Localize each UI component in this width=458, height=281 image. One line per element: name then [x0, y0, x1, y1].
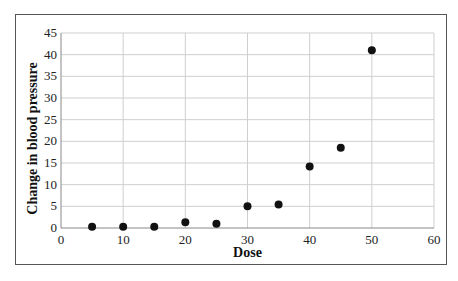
- y-tick-labels: 051015202530354045: [44, 25, 57, 235]
- y-tick-label: 25: [44, 112, 57, 127]
- data-point: [88, 223, 96, 231]
- x-axis-label: Dose: [233, 245, 262, 260]
- data-point: [119, 223, 127, 231]
- data-point: [275, 201, 283, 209]
- data-point: [368, 46, 376, 54]
- x-tick-label: 20: [179, 232, 192, 247]
- data-point: [150, 223, 158, 231]
- y-tick-label: 45: [44, 25, 57, 40]
- x-tick-label: 40: [303, 232, 316, 247]
- data-point: [181, 218, 189, 226]
- scatter-chart: 0102030405060 051015202530354045 Dose Ch…: [0, 0, 458, 281]
- y-tick-label: 20: [44, 133, 57, 148]
- x-tick-label: 0: [58, 232, 65, 247]
- y-axis-label: Change in blood pressure: [25, 62, 40, 214]
- y-tick-label: 30: [44, 90, 57, 105]
- data-point: [212, 220, 220, 228]
- x-tick-label: 60: [428, 232, 441, 247]
- y-tick-label: 10: [44, 177, 57, 192]
- y-tick-label: 40: [44, 47, 57, 62]
- y-tick-label: 15: [44, 155, 57, 170]
- x-tick-label: 10: [117, 232, 130, 247]
- data-points: [88, 46, 376, 230]
- data-point: [244, 202, 252, 210]
- data-point: [337, 144, 345, 152]
- y-tick-label: 5: [51, 198, 58, 213]
- y-tick-label: 35: [44, 68, 57, 83]
- x-tick-label: 50: [365, 232, 378, 247]
- data-point: [306, 162, 314, 170]
- y-tick-label: 0: [51, 220, 58, 235]
- grid: [61, 33, 434, 228]
